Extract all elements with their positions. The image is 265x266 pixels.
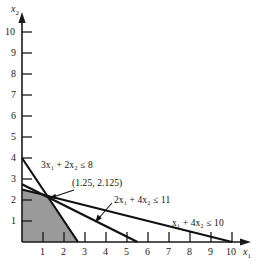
x-tick-label-6: 6 [145, 246, 150, 257]
y-axis-arrowhead [18, 12, 25, 23]
y-tick-label-6: 6 [11, 110, 16, 121]
x-tick-label-2: 2 [61, 246, 66, 257]
y-tick-label-7: 7 [11, 89, 16, 100]
x-tick-label-4: 4 [103, 246, 108, 257]
y-tick-label-9: 9 [11, 47, 16, 58]
y-axis-label: x2 [11, 3, 19, 17]
x-tick-label-3: 3 [82, 246, 87, 257]
x-tick-label-1: 1 [40, 246, 45, 257]
plot-canvas [0, 0, 265, 266]
x-tick-label-9: 9 [208, 246, 213, 257]
x-axis-label: x1 [243, 246, 251, 260]
linear-programming-graph: x2 x1 1 2 3 4 5 6 7 8 9 10 1 2 3 4 5 6 7… [0, 0, 265, 266]
x-tick-label-10: 10 [226, 246, 236, 257]
x-tick-label-7: 7 [166, 246, 171, 257]
y-tick-label-10: 10 [5, 26, 15, 37]
constraint-2-leader-arrow [95, 203, 112, 222]
constraint-label-3: x₁ + 4x₂ ≤ 10 [172, 218, 224, 228]
constraint-label-2: 2x₁ + 4x₂ ≤ 11 [114, 195, 170, 205]
x-tick-label-8: 8 [187, 246, 192, 257]
vertex-leader-arrow [49, 190, 75, 199]
x-tick-label-5: 5 [124, 246, 129, 257]
y-tick-label-5: 5 [11, 131, 16, 142]
vertex-annotation: (1.25, 2.125) [72, 178, 122, 188]
x-axis-arrowhead [240, 239, 251, 246]
y-tick-label-2: 2 [11, 194, 16, 205]
y-tick-label-4: 4 [11, 152, 16, 163]
y-tick-label-1: 1 [11, 215, 16, 226]
y-tick-label-8: 8 [11, 68, 16, 79]
constraint-label-1: 3x₁ + 2x₂ ≤ 8 [41, 160, 93, 170]
y-tick-label-3: 3 [11, 173, 16, 184]
